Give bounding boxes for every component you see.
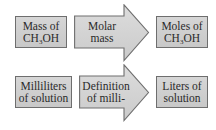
start-box-line2: of solution — [19, 92, 69, 105]
arrow-label-line1: Molar — [88, 20, 116, 33]
start-box-milliliters: Milliliters of solution — [15, 76, 72, 108]
conversion-arrow-definition-milli: Definition of milli- — [79, 64, 150, 122]
end-box-line2: solution — [163, 92, 200, 105]
start-box-line1: Mass of — [23, 20, 60, 33]
end-box-moles-ch3oh: Moles of CH3OH — [156, 16, 208, 48]
arrow-label-line2: of milli- — [87, 92, 125, 105]
arrow-label-line2: mass — [91, 32, 114, 45]
start-box-line1: Milliliters — [21, 80, 67, 93]
end-box-line1: Moles of — [161, 20, 202, 33]
end-box-line2: CH3OH — [164, 32, 200, 45]
end-box-line1: Liters of — [162, 80, 201, 93]
conversion-arrow-molar-mass: Molar mass — [74, 4, 150, 62]
start-box-mass-ch3oh: Mass of CH3OH — [15, 16, 67, 48]
end-box-liters: Liters of solution — [156, 76, 208, 108]
arrow-label-line1: Definition — [82, 80, 129, 93]
start-box-line2: CH3OH — [23, 32, 59, 45]
